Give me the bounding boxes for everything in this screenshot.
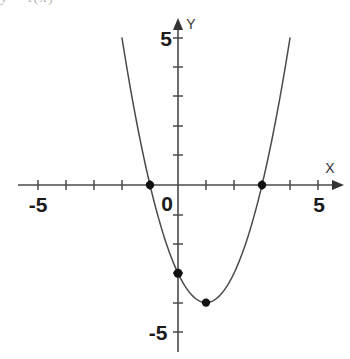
x-axis-max-label: 5 <box>313 193 325 216</box>
x-axis-min-label: -5 <box>29 193 48 216</box>
point-y-intercept <box>174 269 183 278</box>
parabola-curve-path <box>122 38 290 303</box>
x-axis-label: X <box>325 160 335 176</box>
y-axis-max-label: 5 <box>160 27 172 50</box>
y-axis-min-label: -5 <box>149 321 168 344</box>
origin-label: 0 <box>161 192 173 215</box>
x-axis-arrow-icon <box>332 180 344 190</box>
point-root-left <box>146 181 154 189</box>
y-axis-arrow-icon <box>173 18 183 30</box>
point-vertex <box>202 298 210 306</box>
graph-figure: y = f(x) <box>0 0 350 359</box>
coordinate-plane: -5 5 0 5 -5 X Y <box>0 0 350 359</box>
y-axis-label: Y <box>186 16 196 32</box>
point-root-right <box>258 181 266 189</box>
